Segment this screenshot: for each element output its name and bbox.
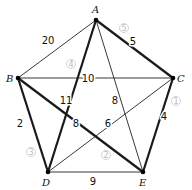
- order-mark-label: 4: [68, 60, 73, 69]
- vertex-e-label: E: [138, 177, 147, 188]
- vertex-a-dot-icon: [94, 18, 99, 23]
- order-mark-label: 1: [173, 97, 178, 106]
- edge-weight-label: 5: [130, 36, 136, 47]
- vertex-a-label: A: [91, 4, 99, 15]
- edge-c-e: [143, 78, 173, 172]
- edge-weight-label: 20: [42, 35, 55, 46]
- vertices-layer: ABCDE: [5, 4, 185, 188]
- vertex-c-dot-icon: [171, 76, 176, 81]
- edge-weight-label: 10: [82, 73, 95, 84]
- vertex-e-dot-icon: [141, 170, 146, 175]
- vertex-d-label: D: [41, 177, 50, 188]
- edge-weight-label: 2: [17, 118, 23, 129]
- order-mark-label: 2: [103, 151, 108, 160]
- edge-weight-label: 4: [161, 111, 167, 122]
- edge-weight-label: 6: [105, 118, 111, 129]
- edge-weight-label: 8: [112, 95, 118, 106]
- vertex-b-label: B: [5, 73, 13, 84]
- edge-weight-label: 11: [60, 95, 73, 106]
- order-mark-label: 3: [28, 148, 33, 157]
- vertex-d-dot-icon: [46, 170, 51, 175]
- edge-weight-label: 9: [90, 176, 96, 187]
- edge-a-c: [96, 20, 173, 78]
- edge-b-e: [18, 78, 143, 172]
- graph-diagram: 2051181028649 54321 ABCDE: [0, 0, 192, 190]
- order-mark-label: 5: [121, 24, 126, 33]
- vertex-c-label: C: [177, 73, 185, 84]
- edge-a-b: [18, 20, 96, 78]
- edge-weight-label: 8: [73, 118, 79, 129]
- vertex-b-dot-icon: [16, 76, 21, 81]
